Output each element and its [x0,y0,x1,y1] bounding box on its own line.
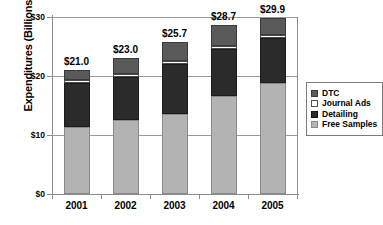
legend-item-detailing[interactable]: Detailing [311,110,377,119]
plot-area: $0$10$20$30$21.0$23.0$25.7$28.7$29.9 [52,17,297,194]
bar-segment-2005-free-samples[interactable] [260,83,286,195]
bar-segment-2003-free-samples[interactable] [162,114,188,194]
bar-total-label-2003: $25.7 [162,28,187,39]
bar-total-label-2004: $28.7 [211,11,236,22]
y-axis-label-10: $10 [31,130,45,140]
legend-label-detailing: Detailing [322,110,358,119]
legend-swatch-detailing-icon [311,111,318,118]
y-axis-label-20: $20 [31,71,45,81]
bar-2005[interactable]: $29.9 [260,18,286,194]
x-axis-label-2005: 2005 [261,200,283,211]
legend-label-dtc: DTC [322,89,339,98]
y-tick-30 [47,17,52,18]
bar-segment-2001-detailing[interactable] [64,83,90,127]
bar-segment-2004-dtc[interactable] [211,25,237,46]
bar-segment-2005-journal-ads[interactable] [260,35,286,38]
bar-2003[interactable]: $25.7 [162,42,188,194]
legend-item-free-samples[interactable]: Free Samples [311,120,377,129]
y-tick-10 [47,135,52,136]
bar-segment-2002-dtc[interactable] [113,58,139,74]
bar-2004[interactable]: $28.7 [211,25,237,194]
x-axis-label-2003: 2003 [163,200,185,211]
bar-segment-2004-detailing[interactable] [211,49,237,96]
bar-total-label-2001: $21.0 [64,56,89,67]
plot-border-right [297,17,298,195]
bar-total-label-2002: $23.0 [113,44,138,55]
legend-item-journal-ads[interactable]: Journal Ads [311,99,377,108]
bar-segment-2003-detailing[interactable] [162,64,188,114]
legend-label-free-samples: Free Samples [322,120,377,129]
chart-legend: DTC Journal Ads Detailing Free Samples [306,82,383,136]
x-tick-origin [52,194,53,199]
y-tick-20 [47,76,52,77]
bar-2001[interactable]: $21.0 [64,70,90,194]
x-axis-label-2004: 2004 [212,200,234,211]
legend-item-dtc[interactable]: DTC [311,89,377,98]
y-axis-label-30: $30 [31,12,45,22]
legend-swatch-journal-ads-icon [311,100,318,107]
x-tick-2005 [297,194,298,199]
y-axis-label-0: $0 [36,189,45,199]
bar-segment-2003-journal-ads[interactable] [162,61,188,64]
bar-segment-2004-free-samples[interactable] [211,96,237,194]
x-tick-2003 [199,194,200,199]
bar-segment-2001-free-samples[interactable] [64,127,90,194]
bar-segment-2001-dtc[interactable] [64,70,90,80]
x-axis-line [50,194,299,195]
bar-total-label-2005: $29.9 [260,4,285,15]
x-tick-2004 [248,194,249,199]
legend-swatch-free-samples-icon [311,121,318,128]
x-axis-label-2002: 2002 [114,200,136,211]
bar-segment-2002-journal-ads[interactable] [113,74,139,77]
bar-segment-2002-detailing[interactable] [113,77,139,119]
x-tick-2001 [101,194,102,199]
bar-segment-2004-journal-ads[interactable] [211,46,237,49]
legend-swatch-dtc-icon [311,90,318,97]
bar-segment-2003-dtc[interactable] [162,42,188,61]
bar-segment-2005-detailing[interactable] [260,38,286,82]
bar-segment-2002-free-samples[interactable] [113,120,139,194]
bar-segment-2005-dtc[interactable] [260,18,286,36]
bar-segment-2001-journal-ads[interactable] [64,80,90,83]
x-tick-2002 [150,194,151,199]
x-axis-label-2001: 2001 [65,200,87,211]
bar-2002[interactable]: $23.0 [113,58,139,194]
legend-label-journal-ads: Journal Ads [322,99,371,108]
